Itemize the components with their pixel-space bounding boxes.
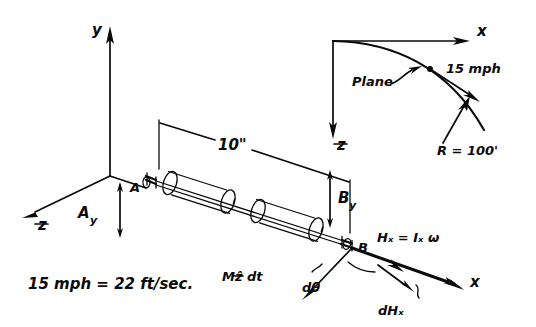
bearing-a-label: A — [129, 180, 140, 195]
x-axis-main — [110, 176, 146, 188]
radius-label: R = 100' — [437, 143, 498, 158]
svg-text:z: z — [336, 136, 346, 154]
dtheta-arc — [348, 262, 375, 272]
y-axis-label: y — [92, 21, 103, 39]
bearing-a — [143, 173, 156, 188]
shaft-rod — [156, 181, 350, 247]
y-axis — [106, 26, 114, 175]
plan-x-axis-label: x — [476, 22, 488, 40]
plane-label: Plane — [352, 74, 393, 89]
shaft-length-label: 10" — [218, 136, 247, 154]
speed-label: 15 mph — [446, 61, 501, 76]
reaction-by-label: B y — [338, 189, 357, 212]
reaction-ay-label: A y — [77, 204, 98, 227]
z-bar-axis-label: z — [35, 216, 48, 234]
conversion-note: 15 mph = 22 ft/sec. — [28, 275, 193, 293]
radius-arrow — [443, 96, 470, 143]
svg-text:z: z — [37, 216, 47, 234]
svg-text:y: y — [349, 199, 357, 212]
reaction-by-arrow — [327, 170, 333, 228]
x-axis-lower-label: x — [469, 273, 481, 291]
svg-text:Hₓ = Iₓ ω: Hₓ = Iₓ ω — [377, 230, 439, 245]
z-bar-axis — [22, 176, 110, 218]
plan-x-axis — [333, 37, 470, 45]
svg-text:y: y — [90, 214, 98, 227]
main-axes-group — [22, 26, 146, 218]
dhx-label: dHₓ — [378, 303, 404, 318]
plan-z-axis-label: z — [334, 136, 347, 154]
hx-equation-label: Hₓ = Iₓ ω — [377, 230, 439, 245]
dhx-leader — [416, 285, 419, 298]
mz-dt-label: Mẑ dt — [222, 269, 263, 284]
plan-view-group — [329, 37, 484, 143]
plane-leader-arrow — [391, 66, 422, 84]
diagram-svg: 10" A y B y A B y z — [0, 0, 536, 327]
svg-text:B: B — [338, 189, 349, 207]
dtheta-leader — [312, 264, 322, 272]
reaction-ay-arrow — [117, 182, 123, 238]
shaft-assembly — [143, 170, 352, 251]
plan-z-axis — [329, 41, 337, 139]
momentum-triangle-group — [302, 248, 464, 300]
figure-canvas: 10" A y B y A B y z — [0, 0, 536, 327]
dtheta-label: dθ — [302, 280, 320, 295]
hx-vector — [352, 248, 462, 288]
svg-text:A: A — [77, 204, 90, 222]
